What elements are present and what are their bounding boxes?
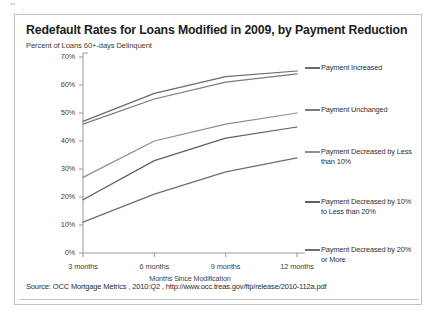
legend-entry-5: Payment Decreased by 20% or More: [305, 245, 417, 264]
legend-color-swatch: [305, 67, 320, 69]
legend-label: Payment Decreased by 10% to Less than 20…: [321, 197, 417, 216]
series-line-5: [83, 158, 297, 222]
legend-label: Payment Decreased by Less than 10%: [321, 147, 417, 166]
legend-color-swatch: [305, 201, 320, 203]
x-axis-tick-label: 6 months: [126, 262, 182, 271]
y-axis-tick-label: 20%: [45, 192, 75, 201]
series-line-3: [83, 113, 297, 177]
y-axis-tick-label: 30%: [45, 164, 75, 173]
series-line-2: [83, 74, 297, 124]
legend-entry-1: Payment Increased: [305, 63, 417, 73]
footer-divider: [19, 299, 419, 300]
legend-entry-4: Payment Decreased by 10% to Less than 20…: [305, 197, 417, 216]
series-line-1: [83, 71, 297, 121]
legend-label: Payment Decreased by 20% or More: [321, 245, 417, 264]
legend-color-swatch: [305, 249, 320, 251]
legend-label: Payment Increased: [321, 63, 417, 73]
y-axis-tick-label: 50%: [45, 108, 75, 117]
scan-artifact-top: [10, 3, 15, 5]
legend-entry-2: Payment Unchanged: [305, 105, 417, 115]
scan-artifact-secondary: [22, 9, 24, 10]
chart-card-inner: Redefault Rates for Loans Modified in 20…: [15, 15, 421, 304]
legend-color-swatch: [305, 151, 320, 153]
x-axis-tick-label: 9 months: [198, 262, 254, 271]
x-axis-tick-label: 3 months: [55, 262, 111, 271]
legend-label: Payment Unchanged: [321, 105, 417, 115]
legend-entry-3: Payment Decreased by Less than 10%: [305, 147, 417, 166]
legend-color-swatch: [305, 109, 320, 111]
y-axis-tick-label: 60%: [45, 80, 75, 89]
source-note: Source: OCC Mortgage Metrics , 2010:Q2 ,…: [26, 282, 327, 291]
y-axis-tick-label: 10%: [45, 220, 75, 229]
chart-card: Redefault Rates for Loans Modified in 20…: [14, 14, 422, 305]
series-line-4: [83, 127, 297, 200]
y-axis-tick-label: 0%: [45, 248, 75, 257]
y-axis-tick-label: 40%: [45, 136, 75, 145]
y-axis-tick-label: 70%: [45, 52, 75, 61]
